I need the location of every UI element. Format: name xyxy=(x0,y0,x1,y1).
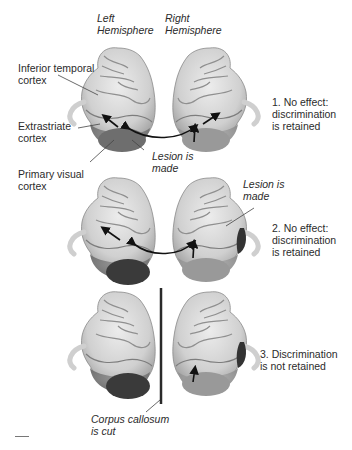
primary-visual-label: Primary visual cortex xyxy=(18,168,84,192)
right-hemisphere-header: Right Hemisphere xyxy=(165,12,222,36)
footnote-mark xyxy=(15,436,29,437)
result-1: 1. No effect: discrimination is retained xyxy=(272,96,336,132)
row-3-brains xyxy=(70,288,258,404)
result-2: 2. No effect: discrimination is retained xyxy=(272,222,336,258)
result-3: 3. Discrimination is not retained xyxy=(260,348,338,372)
row-2-brains xyxy=(70,178,258,285)
inferior-temporal-label: Inferior temporal cortex xyxy=(18,62,94,86)
corpus-callosum-label: Corpus callosum is cut xyxy=(91,413,169,437)
row-1-brains xyxy=(70,48,258,152)
left-hemisphere-header: Left Hemisphere xyxy=(97,12,154,36)
lesion-label-1: Lesion is made xyxy=(152,150,193,174)
extrastriate-label: Extrastriate cortex xyxy=(18,120,71,144)
lesion-label-2: Lesion is made xyxy=(243,178,284,202)
